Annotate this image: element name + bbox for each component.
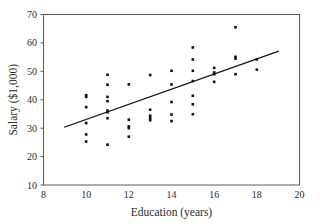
- data-point: [192, 69, 195, 72]
- y-tick-label: 70: [27, 9, 37, 20]
- data-point: [128, 83, 131, 86]
- data-point: [213, 73, 216, 76]
- data-point: [106, 143, 109, 146]
- data-point: [106, 73, 109, 76]
- y-tick-label: 60: [27, 37, 37, 48]
- plot-area-svg: 70 60 50 40 30 20 10 8 10 12 14 16 18 20…: [0, 0, 320, 224]
- x-tick-label: 20: [295, 189, 305, 200]
- x-tick-label: 12: [124, 189, 134, 200]
- x-tick-label: 8: [41, 189, 46, 200]
- data-point: [170, 69, 173, 72]
- y-tick-label: 10: [27, 180, 37, 191]
- data-point: [234, 73, 237, 76]
- data-point: [192, 46, 195, 49]
- data-point: [192, 80, 195, 83]
- data-point: [192, 103, 195, 106]
- data-point: [106, 96, 109, 99]
- data-point: [128, 118, 131, 121]
- data-point: [170, 113, 173, 116]
- data-point: [256, 58, 259, 61]
- y-axis: 70 60 50 40 30 20 10: [27, 9, 44, 191]
- data-point: [149, 119, 152, 122]
- data-point: [128, 135, 131, 138]
- data-point: [85, 122, 88, 125]
- y-tick-label: 50: [27, 66, 37, 77]
- data-point: [234, 57, 237, 60]
- data-point: [85, 96, 88, 99]
- data-point: [192, 113, 195, 116]
- y-axis-title: Salary ($1,000): [7, 64, 20, 136]
- data-point: [106, 111, 109, 114]
- data-point: [149, 114, 152, 117]
- y-tick-label: 20: [27, 151, 37, 162]
- data-point: [149, 108, 152, 111]
- data-point: [85, 140, 88, 143]
- y-tick-label: 40: [27, 94, 37, 105]
- data-point: [234, 26, 237, 29]
- y-tick-label: 30: [27, 123, 37, 134]
- data-point: [85, 106, 88, 109]
- x-axis-title: Education (years): [131, 206, 213, 219]
- data-point: [213, 81, 216, 84]
- data-point: [106, 117, 109, 120]
- data-point: [192, 58, 195, 61]
- data-point: [128, 127, 131, 130]
- data-point-group: [85, 26, 258, 146]
- data-point: [192, 94, 195, 97]
- data-point: [256, 68, 259, 71]
- x-tick-label: 16: [209, 189, 219, 200]
- x-tick-label: 18: [252, 189, 262, 200]
- data-point: [170, 101, 173, 104]
- data-point: [213, 67, 216, 70]
- x-axis: 8 10 12 14 16 18 20: [41, 189, 305, 200]
- plot-frame: [44, 15, 300, 186]
- data-point: [85, 133, 88, 136]
- scatter-chart: 70 60 50 40 30 20 10 8 10 12 14 16 18 20…: [0, 0, 320, 224]
- x-tick-label: 10: [81, 189, 91, 200]
- data-point: [170, 83, 173, 86]
- data-point: [106, 83, 109, 86]
- x-tick-label: 14: [167, 189, 177, 200]
- data-point: [149, 74, 152, 77]
- data-point: [170, 120, 173, 123]
- data-point: [106, 100, 109, 103]
- data-point: [149, 117, 152, 120]
